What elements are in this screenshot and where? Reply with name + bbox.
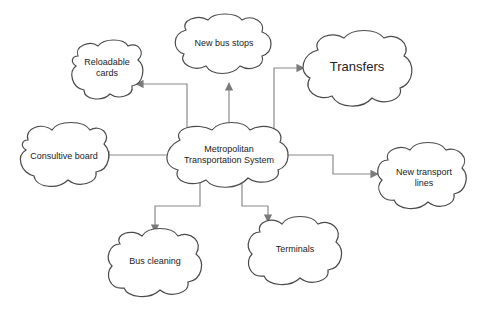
node-label-new-bus-stops: New bus stops bbox=[194, 38, 253, 49]
node-label-new-transport-lines: New transport lines bbox=[396, 167, 452, 190]
node-label-line: cards bbox=[84, 68, 130, 79]
center-label-line1: Metropolitan bbox=[184, 144, 274, 155]
node-label-line: Reloadable bbox=[84, 57, 130, 68]
center-label-line2: Transportation System bbox=[184, 155, 274, 166]
node-label-line: Terminals bbox=[276, 244, 315, 255]
connector-new-transport-lines bbox=[284, 155, 378, 174]
node-label-line: New bus stops bbox=[194, 38, 253, 49]
connector-reloadable-cards bbox=[136, 84, 187, 138]
node-label-line: Bus cleaning bbox=[129, 256, 181, 267]
node-label-transfers: Transfers bbox=[330, 59, 384, 75]
node-label-line: Transfers bbox=[330, 59, 384, 75]
node-label-line: lines bbox=[396, 178, 452, 189]
connector-bus-cleaning bbox=[155, 178, 200, 232]
node-label-reloadable-cards: Reloadable cards bbox=[84, 57, 130, 80]
node-label-line: New transport bbox=[396, 167, 452, 178]
connector-terminals bbox=[242, 178, 268, 222]
node-label-bus-cleaning: Bus cleaning bbox=[129, 256, 181, 267]
node-label-terminals: Terminals bbox=[276, 244, 315, 255]
center-label: Metropolitan Transportation System bbox=[184, 144, 274, 167]
node-label-consultive-board: Consultive board bbox=[30, 151, 98, 162]
connector-transfers bbox=[274, 68, 304, 133]
node-label-line: Consultive board bbox=[30, 151, 98, 162]
